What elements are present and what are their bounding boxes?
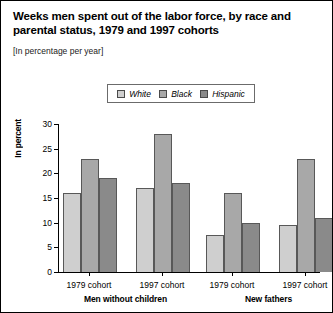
x-axis-cohort-label: 1997 cohort	[283, 280, 328, 290]
plot-area: 051015202530 1979 cohort1997 cohort1979 …	[1, 105, 333, 313]
axes: 051015202530 1979 cohort1997 cohort1979 …	[58, 124, 320, 272]
x-axis-line	[58, 272, 320, 273]
bar-white[interactable]	[279, 225, 297, 272]
bar-black[interactable]	[154, 134, 172, 272]
y-tick-label: 10	[43, 218, 52, 228]
chart-figure: Weeks men spent out of the labor force, …	[0, 0, 333, 313]
y-tick-label: 25	[43, 144, 52, 154]
y-tick-label: 5	[47, 242, 52, 252]
chart-header: Weeks men spent out of the labor force, …	[1, 1, 333, 56]
bar-black[interactable]	[81, 159, 99, 272]
y-tick-label: 15	[43, 193, 52, 203]
y-tick-mark	[54, 124, 58, 125]
bar-hispanic[interactable]	[315, 218, 333, 272]
x-axis-panel-label: Men without children	[84, 294, 167, 304]
bar-white[interactable]	[206, 235, 224, 272]
y-tick-mark	[54, 198, 58, 199]
bar-hispanic[interactable]	[172, 183, 190, 272]
x-axis-panel-label: New fathers	[245, 294, 292, 304]
y-tick-label: 0	[47, 267, 52, 277]
legend-item-hispanic[interactable]: Hispanic	[200, 89, 245, 99]
legend-item-black[interactable]: Black	[159, 89, 192, 99]
bar-group	[63, 124, 117, 272]
legend-swatch-icon	[159, 90, 167, 98]
y-tick-mark	[54, 272, 58, 273]
x-axis-cohort-label: 1979 cohort	[67, 280, 112, 290]
chart-subtitle: [In percentage per year]	[13, 46, 322, 56]
bar-black[interactable]	[224, 193, 242, 272]
bar-white[interactable]	[63, 193, 81, 272]
y-tick-label: 30	[43, 119, 52, 129]
x-axis-cohort-label: 1997 cohort	[140, 280, 185, 290]
legend-item-white[interactable]: White	[117, 89, 151, 99]
legend-swatch-icon	[117, 90, 125, 98]
y-tick-mark	[54, 173, 58, 174]
x-axis-cohort-label: 1979 cohort	[210, 280, 255, 290]
y-tick-mark	[54, 223, 58, 224]
bar-group	[206, 124, 260, 272]
legend-swatch-icon	[200, 90, 208, 98]
bar-white[interactable]	[136, 188, 154, 272]
bar-hispanic[interactable]	[242, 223, 260, 272]
x-tick-mark	[89, 272, 90, 276]
x-tick-mark	[232, 272, 233, 276]
bar-series-container	[59, 124, 320, 272]
legend-label: Hispanic	[212, 89, 245, 99]
bar-hispanic[interactable]	[99, 178, 117, 272]
bar-group	[279, 124, 333, 272]
y-tick-mark	[54, 247, 58, 248]
bar-group	[136, 124, 190, 272]
x-tick-mark	[305, 272, 306, 276]
y-tick-label: 20	[43, 168, 52, 178]
y-tick-mark	[54, 149, 58, 150]
chart-legend: WhiteBlackHispanic	[107, 84, 255, 103]
x-tick-mark	[162, 272, 163, 276]
chart-title: Weeks men spent out of the labor force, …	[13, 10, 322, 37]
legend-label: White	[129, 89, 151, 99]
bar-black[interactable]	[297, 159, 315, 272]
legend-label: Black	[171, 89, 192, 99]
